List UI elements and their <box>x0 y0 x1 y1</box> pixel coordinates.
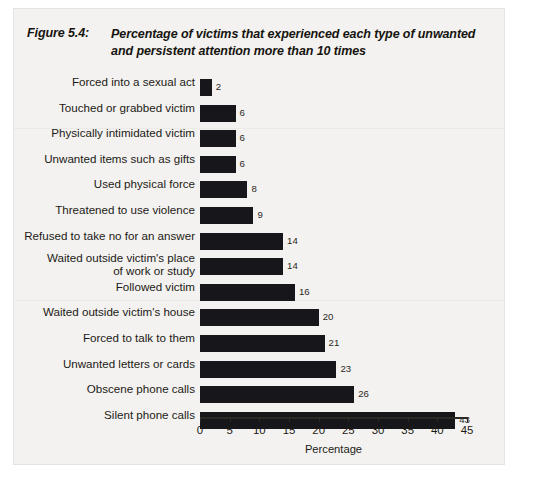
x-axis-tick-label: 15 <box>283 424 296 436</box>
bar-wrapper: 2 <box>200 79 212 96</box>
chart-bar <box>200 309 319 326</box>
x-axis-tick <box>319 417 320 422</box>
chart-bar <box>200 361 336 378</box>
chart-bar <box>200 207 253 224</box>
x-axis-tick <box>408 417 409 422</box>
category-label: Followed victim <box>0 281 200 294</box>
chart-bar <box>200 79 212 96</box>
x-axis-tick-label: 40 <box>431 424 444 436</box>
chart-bar <box>200 412 455 429</box>
bar-value-label: 23 <box>336 363 351 374</box>
x-axis-tick-label: 45 <box>461 424 474 436</box>
bar-value-label: 9 <box>253 209 262 220</box>
x-axis-tick <box>467 417 468 422</box>
chart-bar-row: Followed victim16 <box>0 281 536 307</box>
bar-wrapper: 6 <box>200 156 236 173</box>
figure-title-text: Percentage of victims that experienced e… <box>111 26 487 59</box>
x-axis-title: Percentage <box>200 443 467 455</box>
x-axis-tick-label: 10 <box>253 424 266 436</box>
x-axis-tick <box>289 417 290 422</box>
category-label: Silent phone calls <box>0 409 200 422</box>
category-label: Forced to talk to them <box>0 332 200 345</box>
x-axis-tick-label: 30 <box>372 424 385 436</box>
chart-bar-row: Waited outside victim's house20 <box>0 306 536 332</box>
chart-bar <box>200 335 325 352</box>
category-label: Forced into a sexual act <box>0 76 200 89</box>
category-label: Waited outside victim's place of work or… <box>0 252 200 277</box>
chart-bar-row: Forced to talk to them21 <box>0 332 536 358</box>
bar-value-label: 21 <box>325 337 340 348</box>
bar-value-label: 26 <box>354 388 369 399</box>
bar-wrapper: 6 <box>200 105 236 122</box>
x-axis-tick-label: 20 <box>312 424 325 436</box>
x-axis-tick <box>348 417 349 422</box>
bar-wrapper: 43 <box>200 412 455 429</box>
bar-wrapper: 14 <box>200 258 283 275</box>
chart-bar <box>200 181 247 198</box>
chart-bar-row: Silent phone calls43 <box>0 409 536 435</box>
chart-bar-row: Forced into a sexual act2 <box>0 76 536 102</box>
category-label: Used physical force <box>0 178 200 191</box>
bar-wrapper: 14 <box>200 233 283 250</box>
chart-plot-area: Forced into a sexual act2Touched or grab… <box>0 76 536 416</box>
bar-wrapper: 20 <box>200 309 319 326</box>
x-axis-tick-label: 25 <box>342 424 355 436</box>
chart-bar <box>200 130 236 147</box>
category-label: Waited outside victim's house <box>0 306 200 319</box>
x-axis-tick <box>378 417 379 422</box>
bar-wrapper: 23 <box>200 361 336 378</box>
category-label: Refused to take no for an answer <box>0 230 200 243</box>
chart-bar <box>200 105 236 122</box>
chart-bar <box>200 386 354 403</box>
bar-value-label: 16 <box>295 286 310 297</box>
bar-value-label: 6 <box>236 107 245 118</box>
bar-value-label: 2 <box>212 81 221 92</box>
chart-bar-row: Touched or grabbed victim6 <box>0 102 536 128</box>
bar-wrapper: 21 <box>200 335 325 352</box>
category-label: Unwanted letters or cards <box>0 358 200 371</box>
chart-bar <box>200 284 295 301</box>
chart-bar-row: Physically intimidated victim6 <box>0 127 536 153</box>
x-axis-tick-label: 0 <box>197 424 203 436</box>
category-label: Obscene phone calls <box>0 383 200 396</box>
figure-number-label: Figure 5.4: <box>27 26 89 40</box>
chart-bar-row: Used physical force8 <box>0 178 536 204</box>
category-label: Physically intimidated victim <box>0 127 200 140</box>
chart-bar-row: Unwanted letters or cards23 <box>0 358 536 384</box>
x-axis-tick <box>230 417 231 422</box>
x-axis-tick-label: 35 <box>401 424 414 436</box>
chart-bar <box>200 258 283 275</box>
bar-value-label: 6 <box>236 132 245 143</box>
category-label: Unwanted items such as gifts <box>0 153 200 166</box>
chart-bar-row: Threatened to use violence9 <box>0 204 536 230</box>
bar-value-label: 14 <box>283 235 298 246</box>
bar-value-label: 6 <box>236 158 245 169</box>
bar-value-label: 14 <box>283 260 298 271</box>
chart-bar <box>200 156 236 173</box>
bar-wrapper: 26 <box>200 386 354 403</box>
bar-value-label: 8 <box>247 183 256 194</box>
bar-wrapper: 16 <box>200 284 295 301</box>
chart-bar-row: Obscene phone calls26 <box>0 383 536 409</box>
bar-wrapper: 9 <box>200 207 253 224</box>
category-label: Threatened to use violence <box>0 204 200 217</box>
category-label: Touched or grabbed victim <box>0 102 200 115</box>
x-axis-line: 051015202530354045 <box>200 417 467 419</box>
chart-bar-row: Waited outside victim's place of work or… <box>0 255 536 281</box>
x-axis-tick <box>437 417 438 422</box>
figure-title-block: Figure 5.4: Percentage of victims that e… <box>27 26 487 59</box>
bar-wrapper: 8 <box>200 181 247 198</box>
bar-value-label: 20 <box>319 311 334 322</box>
x-axis-tick-label: 5 <box>226 424 232 436</box>
figure-container: Figure 5.4: Percentage of victims that e… <box>0 0 536 482</box>
chart-bar-row: Unwanted items such as gifts6 <box>0 153 536 179</box>
bar-wrapper: 6 <box>200 130 236 147</box>
x-axis-tick <box>259 417 260 422</box>
x-axis-tick <box>200 417 201 422</box>
chart-bar <box>200 233 283 250</box>
